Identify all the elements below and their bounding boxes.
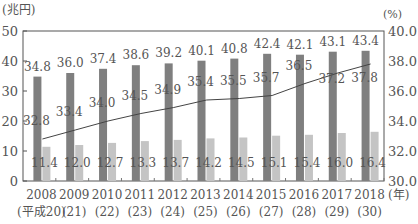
line-point-label: 34.0 bbox=[89, 96, 116, 110]
bar-light-label: 16.4 bbox=[359, 156, 386, 170]
line-point-label: 37.8 bbox=[351, 71, 378, 85]
x-sublabel: (22) bbox=[95, 205, 120, 219]
x-label: 2013 bbox=[190, 188, 221, 202]
x-sublabel: (26) bbox=[226, 205, 251, 219]
plot-area: 0102030405030.032.034.036.038.040.034.81… bbox=[1, 24, 417, 219]
x-sublabel: (27) bbox=[259, 205, 284, 219]
x-label: 2009 bbox=[59, 188, 90, 202]
right-tick-label: 34.0 bbox=[388, 114, 417, 129]
bar-dark-label: 38.6 bbox=[123, 48, 150, 62]
bar-dark-label: 34.8 bbox=[24, 60, 51, 74]
x-label: 2010 bbox=[92, 188, 123, 202]
left-tick-label: 40 bbox=[1, 54, 18, 69]
bar-dark-label: 42.4 bbox=[254, 37, 281, 51]
bar-light-label: 13.3 bbox=[130, 156, 157, 170]
left-tick-label: 50 bbox=[1, 24, 18, 39]
x-label: 2016 bbox=[289, 188, 320, 202]
x-axis-unit: (年) bbox=[388, 188, 409, 202]
x-sublabel: (平成20) bbox=[17, 205, 66, 219]
bar-light-label: 12.0 bbox=[64, 156, 91, 170]
line-point-label: 34.5 bbox=[122, 89, 149, 103]
bar-dark-label: 40.8 bbox=[221, 42, 248, 56]
x-label: 2017 bbox=[321, 188, 352, 202]
right-tick-label: 38.0 bbox=[388, 54, 417, 69]
bar-dark-label: 36.0 bbox=[57, 56, 84, 70]
line-point-label: 35.4 bbox=[187, 75, 214, 89]
bar-dark-label: 40.1 bbox=[188, 44, 215, 58]
bar-light-label: 13.7 bbox=[162, 156, 189, 170]
left-tick-label: 0 bbox=[10, 174, 18, 189]
x-sublabel: (23) bbox=[128, 205, 153, 219]
bar-light-label: 11.4 bbox=[31, 156, 58, 170]
right-tick-label: 40.0 bbox=[388, 24, 417, 39]
line-point-label: 35.7 bbox=[253, 71, 280, 85]
right-tick-label: 30.0 bbox=[388, 174, 417, 189]
bar-light-label: 15.4 bbox=[294, 156, 321, 170]
line-point-label: 37.2 bbox=[318, 72, 345, 86]
x-label: 2014 bbox=[223, 188, 254, 202]
bar-light-label: 14.2 bbox=[195, 156, 222, 170]
x-sublabel: (24) bbox=[160, 205, 185, 219]
x-label: 2015 bbox=[256, 188, 287, 202]
bar-dark-label: 39.2 bbox=[155, 46, 182, 60]
line-point-label: 34.9 bbox=[154, 83, 181, 97]
x-sublabel: (21) bbox=[62, 205, 87, 219]
line-point-label: 33.4 bbox=[56, 105, 83, 119]
x-label: 2018 bbox=[354, 188, 385, 202]
chart: 0102030405030.032.034.036.038.040.034.81… bbox=[0, 0, 418, 224]
left-tick-label: 30 bbox=[1, 84, 18, 99]
x-sublabel: (25) bbox=[193, 205, 218, 219]
line-point-label: 32.8 bbox=[23, 114, 50, 128]
x-sublabel: (29) bbox=[324, 205, 349, 219]
line-point-label: 36.5 bbox=[286, 59, 313, 73]
x-label: 2012 bbox=[157, 188, 188, 202]
bar-light-label: 16.0 bbox=[326, 156, 353, 170]
right-tick-label: 32.0 bbox=[388, 144, 417, 159]
left-tick-label: 20 bbox=[1, 114, 18, 129]
bar-dark-label: 37.4 bbox=[90, 52, 117, 66]
x-sublabel: (30) bbox=[357, 205, 382, 219]
bar-dark-label: 42.1 bbox=[287, 38, 314, 52]
bar-dark-label: 43.1 bbox=[319, 35, 346, 49]
x-sublabel: (28) bbox=[292, 205, 317, 219]
right-tick-label: 36.0 bbox=[388, 84, 417, 99]
right-axis-unit: (%) bbox=[383, 8, 402, 21]
bar-dark-label: 43.4 bbox=[352, 34, 379, 48]
x-label: 2011 bbox=[125, 188, 156, 202]
bar-light-label: 14.5 bbox=[228, 156, 255, 170]
x-label: 2008 bbox=[26, 188, 57, 202]
left-tick-label: 10 bbox=[1, 144, 18, 159]
bar-light-label: 15.1 bbox=[261, 156, 288, 170]
left-axis-unit: (兆円) bbox=[2, 3, 35, 17]
bar-light-label: 12.7 bbox=[97, 156, 124, 170]
line-point-label: 35.5 bbox=[220, 74, 247, 88]
